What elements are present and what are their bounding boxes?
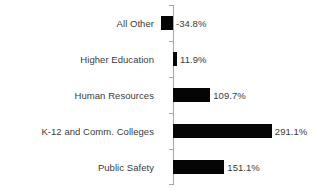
- plot-area: All Other -34.8% Higher Education 11.9% …: [0, 0, 319, 195]
- category-label: Higher Education: [80, 53, 154, 64]
- value-label: 291.1%: [275, 125, 308, 136]
- bar-row: Public Safety 151.1%: [0, 150, 319, 183]
- category-label: Human Resources: [75, 89, 154, 100]
- category-label: Public Safety: [98, 161, 154, 172]
- bar-row: K-12 and Comm. Colleges 291.1%: [0, 114, 319, 147]
- bar-higher-education: [173, 52, 177, 66]
- value-label: 151.1%: [227, 161, 260, 172]
- bar-row: Human Resources 109.7%: [0, 78, 319, 111]
- category-label: K-12 and Comm. Colleges: [41, 125, 154, 136]
- value-label: 11.9%: [180, 53, 206, 64]
- bar-row: Higher Education 11.9%: [0, 42, 319, 75]
- axis-tick: [169, 184, 173, 185]
- bar-human-resources: [173, 88, 210, 102]
- bar-k12-and-comm-colleges: [173, 124, 272, 138]
- value-label: -34.8%: [176, 17, 206, 28]
- bar-row: All Other -34.8%: [0, 6, 319, 39]
- value-label: 109.7%: [213, 89, 246, 100]
- bar-all-other: [161, 16, 173, 30]
- bar-chart: All Other -34.8% Higher Education 11.9% …: [0, 0, 319, 195]
- bar-public-safety: [173, 160, 224, 174]
- category-label: All Other: [117, 17, 154, 28]
